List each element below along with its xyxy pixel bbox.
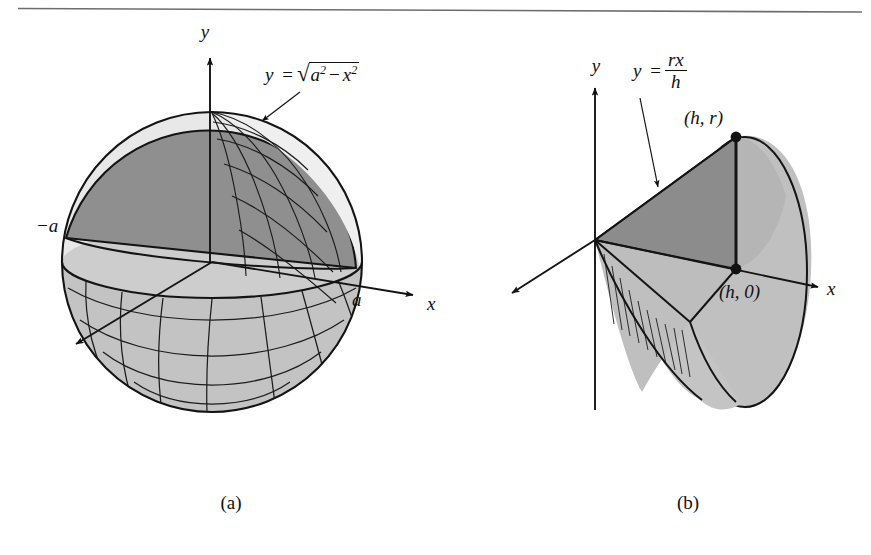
figure-root: y x −a a (a)	[0, 0, 871, 555]
fraction-denominator: h	[665, 71, 687, 91]
panel-a-right-tick-label: a	[352, 289, 362, 310]
panel-a-eq-equals: =	[282, 64, 293, 85]
panel-b-line-equation: y =rxh	[633, 52, 687, 93]
cone-point-top-dot	[731, 132, 742, 143]
panel-b-z-axis	[512, 240, 595, 293]
panel-a-sphere-figure: y x −a a (a)	[36, 21, 436, 514]
panel-b-point-top-label: (h, r)	[684, 107, 723, 129]
panel-b-x-axis-label: x	[826, 278, 836, 299]
radicand-x: x	[343, 64, 351, 85]
radicand-a-exponent: 2	[320, 63, 326, 77]
panel-a-x-axis-label: x	[426, 293, 436, 314]
panel-b-caption: (b)	[677, 492, 699, 514]
panel-a-eq-radicand: a2−x2	[309, 62, 360, 84]
panel-b-point-base-label: (h, 0)	[719, 281, 760, 303]
panel-b-eq-lhs: y	[633, 60, 641, 81]
panel-b-eq-fraction: rxh	[665, 50, 687, 91]
panel-b-cone-figure: y x (h, r) (h, 0) (b)	[512, 55, 836, 514]
fraction-numerator: rx	[665, 50, 687, 71]
panel-b-y-axis-label: y	[590, 55, 601, 76]
panel-a-left-tick-label: −a	[36, 215, 58, 236]
radicand-x-exponent: 2	[351, 63, 357, 77]
radicand-minus: −	[329, 64, 340, 85]
cone-point-base-dot	[731, 264, 742, 275]
panel-a-eq-radical: √a2−x2	[297, 60, 359, 85]
figure-canvas: y x −a a (a)	[0, 0, 871, 555]
panel-b-equation-leader-line	[640, 98, 658, 187]
panel-a-equation-leader-line	[262, 92, 300, 121]
top-horizontal-rule	[18, 9, 862, 13]
panel-a-curve-equation: y =√a2−x2	[265, 60, 359, 85]
panel-a-y-axis-label: y	[199, 21, 210, 42]
panel-a-caption: (a)	[220, 492, 241, 514]
panel-a-eq-lhs: y	[265, 64, 273, 85]
radicand-a: a	[311, 64, 321, 85]
panel-b-eq-equals: =	[650, 60, 661, 81]
